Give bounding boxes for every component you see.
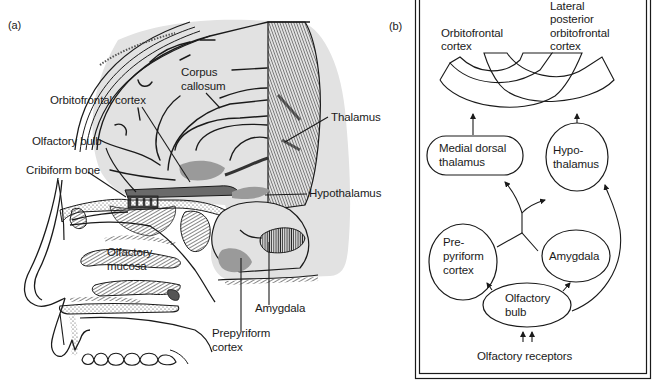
node-hypothalamus	[546, 123, 608, 191]
thalamus-section	[268, 22, 320, 210]
label-prepyriform-cortex-line1: Prepyriform	[212, 327, 270, 340]
label-olfactory-mucosa-line1: Olfactory	[107, 246, 152, 259]
label-lateral-posterior-line2: posterior	[550, 13, 594, 26]
label-orbitofrontal-line2: cortex	[441, 40, 472, 53]
label-cribiform-bone: Cribiform bone	[26, 164, 100, 177]
label-lateral-posterior-line4: cortex	[550, 40, 581, 53]
lateral-posterior-arc	[484, 53, 614, 101]
label-prepyriform-line1: Pre-	[443, 236, 464, 249]
edge-bulb-to-amygdala	[563, 283, 570, 291]
panel-b-diagram	[416, 0, 651, 379]
teeth	[82, 353, 176, 365]
label-corpus-callosum-line2: callosum	[181, 80, 226, 93]
label-orbitofrontal-line1: Orbitofrontal	[441, 27, 503, 40]
label-olfactory-bulb-line2: bulb	[505, 306, 526, 319]
label-olfactory-mucosa-line2: mucosa	[107, 260, 147, 273]
label-corpus-callosum-line1: Corpus	[181, 66, 217, 79]
panel-b-letter: (b)	[389, 20, 402, 33]
label-medial-dorsal-line2: thalamus	[439, 156, 485, 169]
orbitofrontal-arc	[450, 53, 552, 83]
label-prepyriform-cortex-line2: cortex	[212, 341, 243, 354]
label-lateral-posterior-line1: Lateral	[550, 0, 584, 13]
label-lateral-posterior-line3: orbitofrontal	[550, 27, 609, 40]
label-medial-dorsal-line1: Medial dorsal	[439, 142, 506, 155]
edge-junction	[497, 233, 538, 251]
label-olfactory-receptors: Olfactory receptors	[477, 350, 572, 363]
panel-a-letter: (a)	[8, 19, 21, 32]
label-thalamus: Thalamus	[331, 111, 381, 124]
label-amygdala-node: Amygdala	[549, 250, 599, 263]
edge-to-mdt	[505, 182, 522, 213]
edge-to-hypo	[522, 200, 545, 213]
label-orbitofrontal-cortex: Orbitofrontal cortex	[50, 94, 146, 107]
label-hypothalamus: Hypothalamus	[309, 187, 381, 200]
label-olfactory-bulb: Olfactory bulb	[32, 135, 102, 148]
label-prepyriform-line3: cortex	[443, 264, 474, 277]
label-amygdala: Amygdala	[255, 302, 305, 315]
label-olfactory-bulb-line1: Olfactory	[505, 292, 550, 305]
label-prepyriform-line2: pyriform	[443, 250, 484, 263]
label-hypothalamus-line1: Hypo-	[553, 144, 583, 157]
node-olfactory-bulb	[483, 283, 571, 327]
label-hypothalamus-line2: thalamus	[553, 158, 599, 171]
